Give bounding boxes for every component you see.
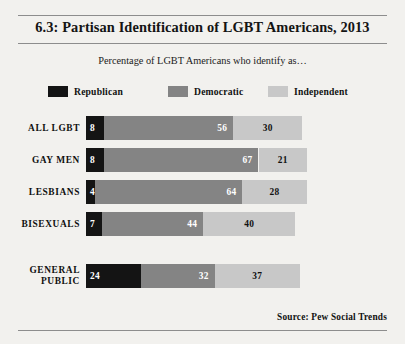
rule-bottom bbox=[18, 330, 387, 331]
bar-segment-independent: 21 bbox=[259, 148, 307, 172]
bar-segment-value: 8 bbox=[90, 155, 95, 165]
bar-row-label-line: LESBIANS bbox=[29, 187, 80, 198]
bar-segment-democratic: 56 bbox=[104, 116, 233, 140]
bar-segment-value: 21 bbox=[278, 155, 288, 165]
bar-segment-republican: 8 bbox=[86, 148, 104, 172]
bar-row-label-line: BISEXUALS bbox=[21, 219, 80, 230]
bar-segment-republican: 4 bbox=[86, 180, 95, 204]
rule-under-title bbox=[18, 43, 387, 44]
bar-row: ALL LGBT85630 bbox=[0, 116, 405, 140]
bar-row: LESBIANS46428 bbox=[0, 180, 405, 204]
bar-row-label-line: GENERAL bbox=[29, 265, 80, 276]
bar-segment-democratic: 44 bbox=[102, 212, 203, 236]
legend-label: Independent bbox=[294, 86, 348, 97]
bar-segment-democratic: 64 bbox=[95, 180, 242, 204]
bar-row-label: ALL LGBT bbox=[0, 116, 80, 140]
bar-row-label: LESBIANS bbox=[0, 180, 80, 204]
rule-top bbox=[18, 15, 387, 16]
bar-row: BISEXUALS74440 bbox=[0, 212, 405, 236]
bar-segment-independent: 28 bbox=[242, 180, 306, 204]
legend-swatch-republican bbox=[48, 86, 68, 97]
bar-row-label-line: PUBLIC bbox=[41, 276, 80, 287]
bar-segment-value: 30 bbox=[263, 123, 273, 133]
bar-segment-value: 67 bbox=[243, 155, 253, 165]
bar-segment-value: 56 bbox=[217, 123, 227, 133]
legend-item-independent: Independent bbox=[268, 84, 348, 98]
page-title: 6.3: Partisan Identification of LGBT Ame… bbox=[0, 19, 405, 36]
bar-segment-independent: 30 bbox=[233, 116, 302, 140]
bar-segment-independent: 37 bbox=[215, 264, 300, 288]
bar-segment-value: 8 bbox=[90, 123, 95, 133]
bar-segment-value: 44 bbox=[187, 219, 197, 229]
legend-item-republican: Republican bbox=[48, 84, 123, 98]
legend-swatch-democratic bbox=[168, 86, 188, 97]
bar-track: 243237 bbox=[86, 264, 300, 288]
bar-segment-democratic: 67 bbox=[104, 148, 258, 172]
bar-track: 86721 bbox=[86, 148, 307, 172]
bar-segment-democratic: 32 bbox=[141, 264, 215, 288]
bar-segment-value: 32 bbox=[199, 271, 209, 281]
legend-label: Democratic bbox=[194, 86, 243, 97]
bar-segment-value: 40 bbox=[244, 219, 254, 229]
bar-segment-independent: 40 bbox=[203, 212, 295, 236]
bar-segment-republican: 24 bbox=[86, 264, 141, 288]
bar-segment-value: 28 bbox=[270, 187, 280, 197]
bar-track: 85630 bbox=[86, 116, 302, 140]
bar-segment-republican: 7 bbox=[86, 212, 102, 236]
bar-segment-value: 7 bbox=[90, 219, 95, 229]
bar-segment-value: 64 bbox=[226, 187, 236, 197]
bar-track: 74440 bbox=[86, 212, 295, 236]
bar-segment-value: 37 bbox=[252, 271, 262, 281]
legend-swatch-independent bbox=[268, 86, 288, 97]
bar-row-label: GENERALPUBLIC bbox=[0, 264, 80, 288]
bar-row: GENERALPUBLIC243237 bbox=[0, 264, 405, 288]
bar-row: GAY MEN86721 bbox=[0, 148, 405, 172]
chart-legend: RepublicanDemocraticIndependent bbox=[48, 84, 368, 98]
bar-segment-value: 24 bbox=[90, 271, 100, 281]
bar-segment-republican: 8 bbox=[86, 116, 104, 140]
bar-row-label-line: ALL LGBT bbox=[28, 123, 80, 134]
bar-row-label: BISEXUALS bbox=[0, 212, 80, 236]
stacked-bar-chart: ALL LGBT85630GAY MEN86721LESBIANS46428BI… bbox=[0, 108, 405, 298]
legend-item-democratic: Democratic bbox=[168, 84, 243, 98]
legend-label: Republican bbox=[74, 86, 123, 97]
chart-subtitle: Percentage of LGBT Americans who identif… bbox=[0, 55, 405, 66]
bar-track: 46428 bbox=[86, 180, 307, 204]
bar-row-label: GAY MEN bbox=[0, 148, 80, 172]
source-note: Source: Pew Social Trends bbox=[0, 312, 387, 322]
bar-row-label-line: GAY MEN bbox=[32, 155, 80, 166]
